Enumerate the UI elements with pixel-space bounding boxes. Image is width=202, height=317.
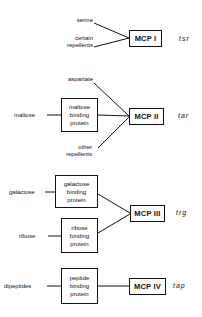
connector-lines (0, 0, 202, 317)
label-line: repellents (50, 151, 92, 158)
box-line: binding (70, 111, 89, 119)
input-label-aspartate: aspartate (45, 76, 93, 83)
box-line: maltose (69, 103, 90, 111)
label-line: certain (50, 35, 93, 42)
box-line: peptide (70, 274, 90, 282)
box-line: binding (70, 232, 89, 240)
box-line: protein (70, 240, 88, 248)
gene-label-tar: tar (178, 112, 189, 119)
box-line: ribose (71, 224, 87, 232)
binding-protein-box-maltose: maltose binding protein (61, 98, 98, 132)
input-label-ribose: ribose (19, 233, 35, 240)
receptor-label: MCP II (135, 112, 159, 121)
input-label-serine: serine (60, 17, 93, 24)
input-label-other-repellents: other repellents (50, 144, 92, 158)
receptor-box-mcp-3: MCP III (130, 205, 165, 222)
gene-label-tsr: tsr (179, 35, 190, 42)
receptor-box-mcp-1: MCP I (129, 30, 162, 47)
gene-label-trg: trg (176, 209, 187, 216)
box-line: protein (70, 290, 88, 298)
label-line: repellents (50, 42, 93, 49)
input-label-dipeptides: dipeptides (4, 283, 31, 290)
receptor-label: MCP IV (134, 282, 161, 291)
receptor-box-mcp-2: MCP II (129, 108, 164, 125)
receptor-label: MCP I (135, 34, 157, 43)
binding-protein-box-peptide: peptide binding protein (61, 268, 98, 304)
box-line: binding (67, 188, 86, 196)
gene-label-tap: tap (173, 282, 186, 289)
binding-protein-box-galactose: galactose binding protein (55, 175, 98, 208)
box-line: galactose (64, 180, 90, 188)
label-line: other (50, 144, 92, 151)
box-line: binding (70, 282, 89, 290)
input-label-galactose: galactose (9, 189, 35, 196)
input-label-maltose: maltose (14, 112, 35, 119)
box-line: protein (67, 196, 85, 204)
box-line: protein (70, 119, 88, 127)
input-label-certain-repellents: certain repellents (50, 35, 93, 49)
receptor-box-mcp-4: MCP IV (129, 278, 166, 295)
receptor-label: MCP III (134, 209, 160, 218)
binding-protein-box-ribose: ribose binding protein (61, 218, 98, 253)
